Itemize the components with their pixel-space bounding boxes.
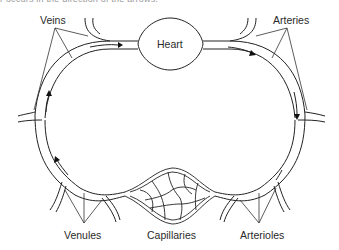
venule-branch-right: [102, 198, 116, 222]
arrow-head-icon: [249, 50, 256, 56]
arteriole-inner2: [215, 188, 260, 195]
arteries-leader-2: [272, 28, 287, 58]
vein-branch-top2: [93, 18, 100, 34]
artery-branch-right: [305, 112, 325, 116]
venule-branch-left: [50, 182, 62, 210]
veins-leader-2: [55, 28, 72, 58]
capillary-net-6: [145, 187, 196, 200]
vein-branch-left: [18, 112, 35, 116]
arterioles-label: Arterioles: [240, 229, 284, 241]
heart-label: Heart: [157, 38, 183, 50]
arrow-head-icon: [54, 156, 60, 163]
venule-inner2: [80, 188, 125, 195]
capillary-outline-bottom2: [130, 196, 210, 220]
capillary-net-3: [168, 172, 182, 220]
venule-inner: [45, 120, 80, 188]
arterioles-leader-1: [240, 200, 259, 223]
artery-outer: [203, 41, 305, 115]
arrow-vein-top: [90, 45, 118, 47]
veins-leader-3: [34, 28, 55, 110]
arrow-arteriole: [276, 170, 282, 180]
veins-leader-1: [55, 28, 88, 36]
venules-leader-3: [84, 200, 102, 223]
venule-outer2: [75, 195, 125, 201]
arteriole-outer: [265, 115, 305, 195]
vein-outer: [35, 41, 138, 115]
vein-branch-left2: [18, 120, 42, 122]
venules-label: Venules: [64, 229, 101, 241]
arteriole-outer2: [215, 195, 265, 201]
vein-branch-top: [85, 18, 110, 41]
capillary-outline-top2: [130, 172, 210, 192]
capillaries-label: Capillaries: [147, 229, 196, 241]
venule-branch-left2: [56, 186, 66, 212]
arteries-label: Arteries: [273, 14, 309, 26]
arteries-leader-1: [256, 28, 287, 36]
arrow-head-icon: [118, 42, 123, 48]
artery-branch-right2: [298, 120, 325, 122]
arteriole-branch-right: [278, 182, 290, 210]
veins-label: Veins: [40, 14, 66, 26]
artery-branch-top: [230, 18, 256, 41]
arteriole-branch-left: [224, 198, 238, 222]
venule-outer: [35, 115, 75, 195]
artery-branch-top2: [240, 18, 248, 34]
